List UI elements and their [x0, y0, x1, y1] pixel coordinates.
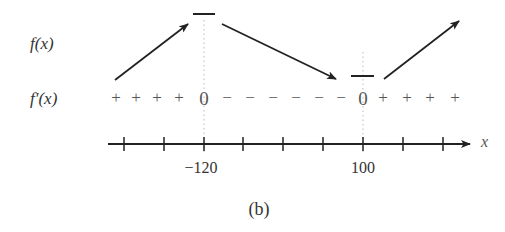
sign-symbol: +	[402, 88, 412, 108]
sign-symbol: +	[174, 88, 184, 108]
tick-label-neg120: −120	[184, 159, 217, 177]
sign-symbol: −	[268, 88, 278, 108]
sign-symbol: +	[378, 88, 388, 108]
sign-symbol: −	[336, 88, 346, 108]
tick-label-100: 100	[351, 159, 375, 177]
sign-symbol: +	[450, 88, 460, 108]
axis-variable-label: x	[481, 133, 488, 151]
sign-symbol: +	[131, 88, 141, 108]
sign-symbol: +	[152, 88, 162, 108]
sign-symbol: +	[111, 88, 121, 108]
sign-symbol: −	[245, 88, 255, 108]
sign-symbol: −	[222, 88, 232, 108]
increasing-arrow-2	[384, 21, 459, 79]
sign-chart-graphics	[0, 0, 505, 232]
decreasing-arrow	[222, 24, 336, 79]
sign-symbol: −	[314, 88, 324, 108]
critical-zero: 0	[358, 88, 368, 110]
sign-symbol: −	[291, 88, 301, 108]
figure-caption: (b)	[249, 199, 270, 220]
increasing-arrow-1	[115, 24, 188, 80]
sign-symbol: +	[425, 88, 435, 108]
critical-zero: 0	[199, 88, 209, 110]
